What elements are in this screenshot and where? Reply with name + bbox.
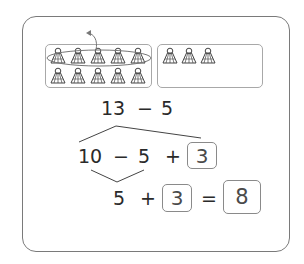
step1-five: 5 bbox=[138, 145, 150, 167]
shuttlecock-icon bbox=[51, 68, 145, 83]
subtrahend: 5 bbox=[161, 97, 173, 119]
equals-sign: = bbox=[201, 187, 217, 209]
result-answer-box[interactable]: 8 bbox=[223, 180, 261, 214]
minuend: 13 bbox=[101, 97, 125, 119]
step1-ten: 10 bbox=[78, 145, 102, 167]
diagram-overlay bbox=[0, 0, 304, 264]
step1-minus: − bbox=[113, 145, 129, 167]
step2-answer-box[interactable]: 3 bbox=[162, 184, 192, 212]
step2-five: 5 bbox=[113, 187, 125, 209]
step1-answer-box[interactable]: 3 bbox=[187, 142, 217, 169]
step1-plus: + bbox=[165, 145, 181, 167]
minus-sign: − bbox=[137, 97, 153, 119]
shuttlecock-icon bbox=[163, 48, 215, 63]
step2-plus: + bbox=[140, 187, 156, 209]
